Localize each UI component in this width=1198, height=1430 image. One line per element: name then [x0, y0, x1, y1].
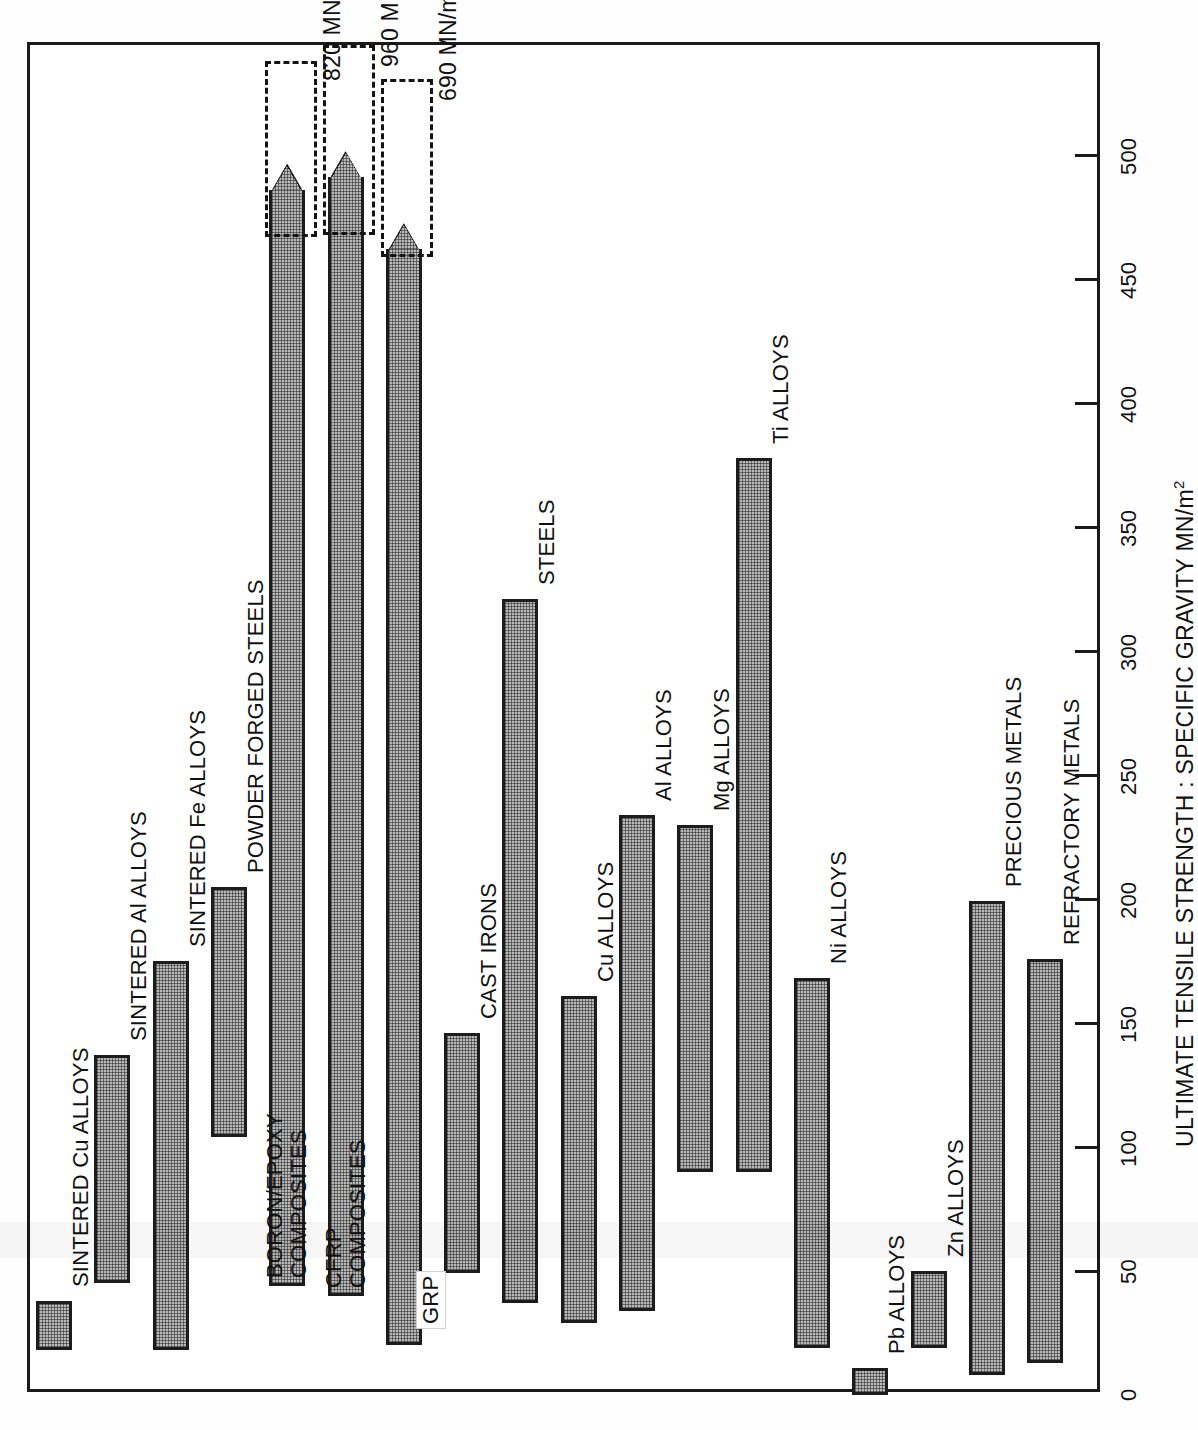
bar	[794, 978, 830, 1348]
bar	[444, 1033, 480, 1274]
bar-category-label: STEELS	[535, 499, 559, 585]
bar-category-label: GRP	[416, 1271, 446, 1329]
axis-tick-label: 500	[1116, 138, 1142, 175]
bar-category-label: CFRP COMPOSITES	[322, 1139, 370, 1288]
axis-title-exponent: 2	[1170, 480, 1187, 489]
axis-tick-label: 350	[1116, 510, 1142, 547]
axis-tick-label: 300	[1116, 634, 1142, 671]
axis-title-text: ULTIMATE TENSILE STRENGTH : SPECIFIC GRA…	[1172, 489, 1198, 1147]
bar-category-label: Pb ALLOYS	[885, 1235, 909, 1354]
bar	[328, 177, 364, 1295]
bar	[619, 815, 655, 1311]
offscale-annotation-box	[381, 79, 433, 257]
offscale-annotation-label: 690 MN/m2	[434, 0, 462, 101]
bar	[153, 961, 189, 1350]
axis-tick	[1075, 154, 1097, 157]
axis-title: ULTIMATE TENSILE STRENGTH : SPECIFIC GRA…	[1170, 480, 1198, 1147]
chart-page: 820 MN/m2960 MN/m2690 MN/m2 SINTERED Cu …	[0, 0, 1198, 1430]
offscale-annotation-label: 960 MN/m2	[376, 0, 404, 67]
bar	[211, 887, 247, 1137]
bar	[36, 1301, 72, 1351]
axis-tick	[1075, 526, 1097, 529]
bar-category-label: Al ALLOYS	[652, 689, 676, 801]
offscale-annotation-value: 690 MN/m	[435, 0, 461, 101]
axis-tick	[1075, 650, 1097, 653]
plot-frame: 820 MN/m2960 MN/m2690 MN/m2 SINTERED Cu …	[27, 42, 1100, 1392]
axis-tick-label: 450	[1116, 262, 1142, 299]
bar-category-label: Ni ALLOYS	[827, 851, 851, 964]
axis-tick	[1075, 1270, 1097, 1273]
bar-category-label: Ti ALLOYS	[769, 334, 793, 444]
bar	[386, 249, 422, 1345]
axis-tick	[1075, 1146, 1097, 1149]
bar	[561, 996, 597, 1323]
bar	[969, 901, 1005, 1375]
axis-tick	[1075, 278, 1097, 281]
offscale-annotation-value: 960 MN/m	[377, 0, 403, 67]
axis-tick	[1075, 1022, 1097, 1025]
bar-category-label: REFRACTORY METALS	[1060, 698, 1084, 944]
bar	[677, 825, 713, 1172]
axis-tick-label: 200	[1116, 882, 1142, 919]
bar	[911, 1271, 947, 1348]
bar	[1027, 959, 1063, 1363]
offscale-annotation-box	[323, 45, 375, 235]
bar-category-label: PRECIOUS METALS	[1002, 677, 1026, 887]
axis-tick-label: 150	[1116, 1006, 1142, 1043]
bar-category-label: Cu ALLOYS	[594, 861, 618, 981]
bar	[736, 458, 772, 1172]
bar-category-label: CAST IRONS	[477, 883, 501, 1019]
bar-category-label: BORON/EPOXY COMPOSITES	[263, 1113, 311, 1278]
axis-tick-label: 50	[1116, 1259, 1142, 1284]
bar-category-label: Mg ALLOYS	[710, 688, 734, 811]
axis-tick-label: 400	[1116, 386, 1142, 423]
axis-tick-label: 250	[1116, 758, 1142, 795]
offscale-annotation-box	[265, 61, 317, 237]
axis-tick-label: 0	[1116, 1389, 1142, 1401]
bar-category-label: Zn ALLOYS	[944, 1139, 968, 1257]
bar-category-label: POWDER FORGED STEELS	[244, 579, 268, 873]
bar	[94, 1055, 130, 1283]
bar-category-label: SINTERED Cu ALLOYS	[69, 1047, 93, 1287]
bar	[852, 1368, 888, 1395]
bar	[502, 599, 538, 1303]
bar-category-label: SINTERED Fe ALLOYS	[186, 710, 210, 947]
axis-tick	[1075, 402, 1097, 405]
axis-tick-label: 100	[1116, 1130, 1142, 1167]
bar-category-label: SINTERED Al ALLOYS	[127, 811, 151, 1041]
